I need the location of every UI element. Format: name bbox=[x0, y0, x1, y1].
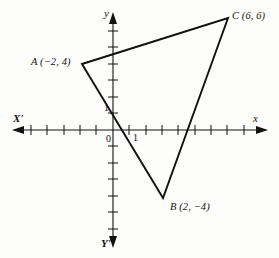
point-label-a: A (−2, 4) bbox=[31, 57, 71, 68]
x-axis-right-arrowhead bbox=[256, 126, 268, 134]
y-axis-top-arrowhead bbox=[109, 12, 117, 24]
x-axis-left-arrowhead bbox=[12, 126, 24, 134]
origin-label: 0 bbox=[106, 134, 111, 144]
y-unit-tick-label: 1 bbox=[104, 103, 109, 113]
y-prime-axis-label: Y' bbox=[101, 238, 111, 249]
x-prime-axis-label: X' bbox=[13, 113, 23, 124]
x-unit-tick-label: 1 bbox=[133, 133, 138, 143]
x-axis-label: x bbox=[253, 113, 258, 124]
point-label-c: C (6, 6) bbox=[232, 11, 265, 22]
y-axis-label: y bbox=[104, 8, 109, 19]
coordinate-plane-figure: A (−2, 4) B (2, −4) C (6, 6) y Y' X' x 0… bbox=[0, 0, 279, 258]
plot-canvas bbox=[0, 0, 279, 258]
point-label-b: B (2, −4) bbox=[170, 202, 210, 213]
